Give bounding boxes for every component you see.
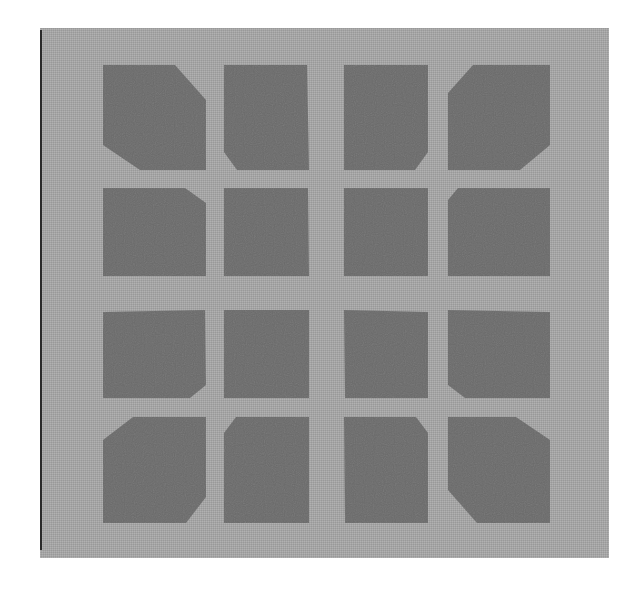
pad-r4c2 <box>224 417 309 523</box>
pad-r3c4 <box>448 310 550 398</box>
pad-r1c1 <box>103 65 206 170</box>
pad-r4c3 <box>344 417 428 523</box>
pad-r1c2 <box>224 65 309 170</box>
pad-group <box>103 65 550 523</box>
pad-r2c1 <box>103 188 206 276</box>
image-stage <box>0 0 636 592</box>
pad-r2c4 <box>448 188 550 276</box>
pad-r2c2 <box>224 188 309 276</box>
pad-r1c4 <box>448 65 550 170</box>
pad-r1c3 <box>344 65 428 170</box>
pad-r4c1 <box>103 417 206 523</box>
pad-r4c4 <box>448 417 550 523</box>
pad-r3c3 <box>344 310 428 398</box>
pad-array <box>0 0 636 592</box>
pad-r3c1 <box>103 310 206 398</box>
pad-r3c2 <box>224 310 309 398</box>
pad-r2c3 <box>344 188 428 276</box>
